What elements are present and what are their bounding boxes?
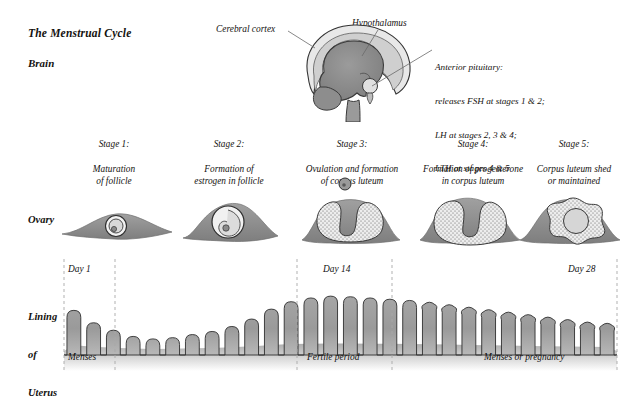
row-label-uterus-line3: Uterus	[28, 387, 57, 400]
stage-number-3: Stage 3:	[337, 139, 368, 149]
ovum-stage-2	[223, 225, 229, 231]
ovary-stage-2	[183, 203, 278, 241]
ovary-stage-4	[420, 198, 520, 245]
leader-line-hypothalamus	[362, 30, 378, 56]
ovum-stage-1	[111, 226, 116, 231]
day-label-28: Day 28	[568, 264, 595, 274]
stage-number-2: Stage 2:	[214, 139, 245, 149]
leader-line-anterior-pituitary	[372, 50, 432, 86]
phase-label-menses-or-pregnancy: Menses or pregnancy	[484, 352, 564, 362]
ovary-stage-1	[62, 214, 172, 239]
stage-number-4: Stage 4:	[458, 139, 489, 149]
ovary-illustrations	[0, 176, 628, 248]
corpus-luteum-core-stage-5	[564, 209, 589, 234]
phase-label-menses: Menses	[68, 352, 96, 362]
phase-label-fertile: Fertile period	[307, 352, 359, 362]
stage-number-1: Stage 1:	[99, 139, 130, 149]
ovary-stage-3	[302, 178, 400, 244]
stage-number-5: Stage 5:	[559, 139, 590, 149]
day-label-1: Day 1	[68, 264, 91, 274]
leader-line-cerebral-cortex	[288, 31, 315, 48]
uterus-lining-chart	[0, 255, 628, 381]
day-label-14: Day 14	[323, 264, 350, 274]
ovary-stage-5	[520, 198, 620, 244]
callout-leader-lines	[0, 0, 628, 130]
